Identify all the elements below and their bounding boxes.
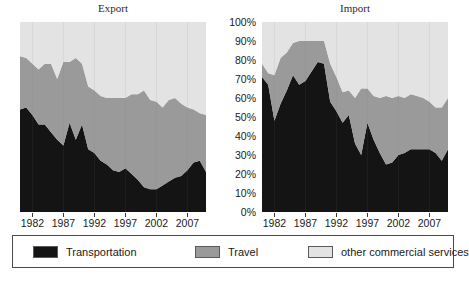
y-axis-tick-label: 10% bbox=[235, 188, 256, 199]
export-area-chart bbox=[20, 22, 206, 212]
x-axis-tick-label: 1992 bbox=[325, 218, 348, 229]
legend-swatch-travel bbox=[195, 246, 220, 258]
x-axis-tick-label: 2002 bbox=[387, 218, 410, 229]
legend-item-transportation: Transportation bbox=[33, 244, 137, 259]
y-axis-tick-label: 50% bbox=[235, 112, 256, 123]
chart-figure: Export Import 100%90%80%70%60%50%40%30%2… bbox=[0, 0, 469, 283]
import-chart-svg bbox=[262, 22, 448, 212]
x-axis-tick-label: 1997 bbox=[114, 218, 137, 229]
export-panel-title: Export bbox=[20, 2, 206, 14]
export-chart-svg bbox=[20, 22, 206, 212]
x-axis-tick-label: 2007 bbox=[418, 218, 441, 229]
x-axis-tick-label: 1982 bbox=[263, 218, 286, 229]
import-x-axis: 198219871992199720022007 bbox=[262, 213, 448, 233]
x-axis-tick-label: 2007 bbox=[176, 218, 199, 229]
x-axis-tick-label: 2002 bbox=[145, 218, 168, 229]
y-axis-tick-label: 70% bbox=[235, 74, 256, 85]
legend-label-other-commercial-services: other commercial services bbox=[341, 246, 469, 258]
legend-item-travel: Travel bbox=[195, 244, 258, 259]
y-axis-tick-label: 40% bbox=[235, 131, 256, 142]
y-axis-tick-label: 100% bbox=[229, 17, 256, 28]
legend-swatch-other-commercial-services bbox=[308, 246, 333, 258]
x-axis-tick-label: 1982 bbox=[21, 218, 44, 229]
import-area-chart bbox=[262, 22, 448, 212]
legend-swatch-transportation bbox=[33, 246, 58, 258]
x-axis-tick-label: 1987 bbox=[294, 218, 317, 229]
y-axis-tick-label: 80% bbox=[235, 55, 256, 66]
export-x-axis: 198219871992199720022007 bbox=[20, 213, 206, 233]
x-axis-tick-label: 1987 bbox=[52, 218, 75, 229]
y-axis-tick-label: 90% bbox=[235, 36, 256, 47]
chart-legend: Transportation Travel other commercial s… bbox=[12, 235, 454, 268]
legend-label-travel: Travel bbox=[228, 246, 258, 258]
legend-item-other-commercial-services: other commercial services bbox=[308, 244, 469, 259]
y-axis-tick-label: 60% bbox=[235, 93, 256, 104]
x-axis-tick-label: 1997 bbox=[356, 218, 379, 229]
y-axis-tick-label: 0% bbox=[241, 207, 256, 218]
y-axis-tick-label: 20% bbox=[235, 169, 256, 180]
import-panel-title: Import bbox=[262, 2, 448, 14]
y-axis: 100%90%80%70%60%50%40%30%20%10%0% bbox=[206, 14, 260, 220]
legend-label-transportation: Transportation bbox=[66, 246, 137, 258]
y-axis-tick-label: 30% bbox=[235, 150, 256, 161]
x-axis-tick-label: 1992 bbox=[83, 218, 106, 229]
